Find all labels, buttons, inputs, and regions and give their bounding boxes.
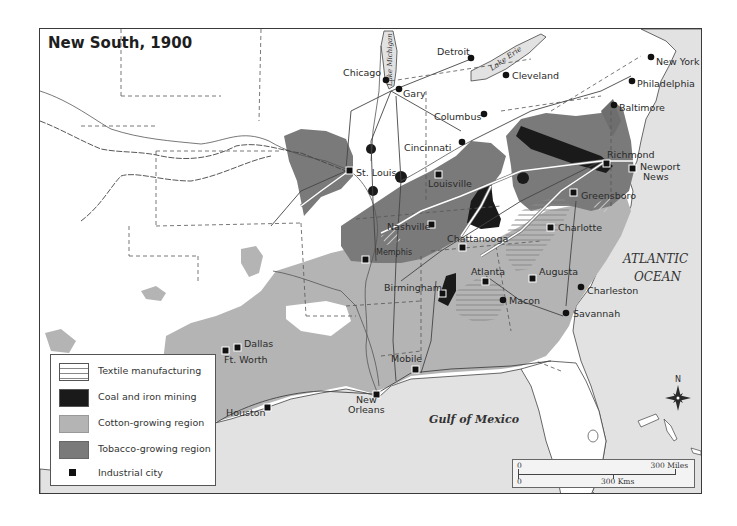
city-label-macon: Macon: [509, 295, 540, 306]
scale-km-start: 0: [517, 477, 522, 486]
legend-item-tobacco: Tobacco-growing region: [51, 439, 215, 461]
scale-line: [518, 474, 676, 475]
city-label-columbus: Columbus: [434, 111, 481, 122]
legend-item-industrial-city: Industrial city: [51, 463, 215, 485]
city-label-gary: Gary: [403, 88, 426, 99]
city-label-nashville: Nashville: [387, 221, 430, 232]
tobacco-swatch-icon: [59, 441, 89, 459]
gulf-of-mexico-label: Gulf of Mexico: [429, 413, 519, 426]
city-label-dallas: Dallas: [244, 338, 273, 349]
legend-label: Tobacco-growing region: [98, 443, 211, 454]
city-label-houston: Houston: [226, 407, 265, 418]
city-label-greensboro: Greensboro: [581, 190, 636, 201]
city-label-chicago: Chicago: [343, 67, 381, 78]
scale-bar: 0 300 Miles 0 300 Kms: [512, 459, 695, 488]
legend-item-textile: Textile manufacturing: [51, 361, 215, 383]
city-label-orleans: Orleans: [348, 404, 385, 415]
city-label-savannah: Savannah: [573, 308, 620, 319]
city-label-news: News: [643, 171, 669, 182]
compass-north-label: N: [675, 375, 681, 384]
city-label-charlotte: Charlotte: [558, 222, 602, 233]
city-label-richmond: Richmond: [607, 149, 655, 160]
city-label-cleveland: Cleveland: [512, 70, 559, 81]
legend-label: Cotton-growing region: [98, 417, 204, 428]
city-label-chattanooga: Chattanooga: [447, 233, 508, 244]
atlantic-label-1: ATLANTIC: [622, 252, 688, 266]
city-label-detroit: Detroit: [437, 46, 470, 57]
cotton-swatch-icon: [59, 415, 89, 433]
city-label-birmingham: Birmingham: [384, 282, 442, 293]
city-label-philadelphia: Philadelphia: [637, 78, 695, 89]
map-legend: Textile manufacturing Coal and iron mini…: [50, 354, 216, 486]
coal-swatch-icon: [59, 389, 89, 407]
scale-km-end: 300 Kms: [601, 477, 634, 486]
legend-label: Textile manufacturing: [98, 365, 201, 376]
legend-item-coal: Coal and iron mining: [51, 387, 215, 409]
scale-tick: [675, 469, 676, 475]
city-label-baltimore: Baltimore: [619, 102, 665, 113]
map-title: New South, 1900: [48, 34, 192, 52]
city-label-louisville: Louisville: [428, 178, 472, 189]
legend-item-cotton: Cotton-growing region: [51, 413, 215, 435]
map-frame: Chicago Gary Detroit Cleveland New York …: [39, 28, 702, 494]
lake-michigan-label: Lake Michigan: [386, 33, 394, 87]
atlantic-label-2: OCEAN: [634, 270, 681, 284]
city-label-augusta: Augusta: [539, 266, 578, 277]
scale-miles-end: 300 Miles: [651, 461, 688, 470]
city-label-new-york: New York: [656, 56, 700, 67]
legend-label: Coal and iron mining: [98, 391, 197, 402]
city-label-mobile: Mobile: [391, 353, 422, 364]
city-label-charleston: Charleston: [587, 285, 638, 296]
city-label-ft-worth: Ft. Worth: [224, 354, 268, 365]
city-label-st-louis: St. Louis: [356, 167, 396, 178]
legend-label: Industrial city: [98, 467, 163, 478]
city-label-atlanta: Atlanta: [471, 266, 505, 277]
industrial-city-square-icon: [69, 469, 76, 476]
city-label-memphis: Memphis: [376, 248, 412, 257]
city-label-cincinnati: Cincinnati: [404, 142, 451, 153]
textile-swatch-icon: [59, 363, 89, 381]
